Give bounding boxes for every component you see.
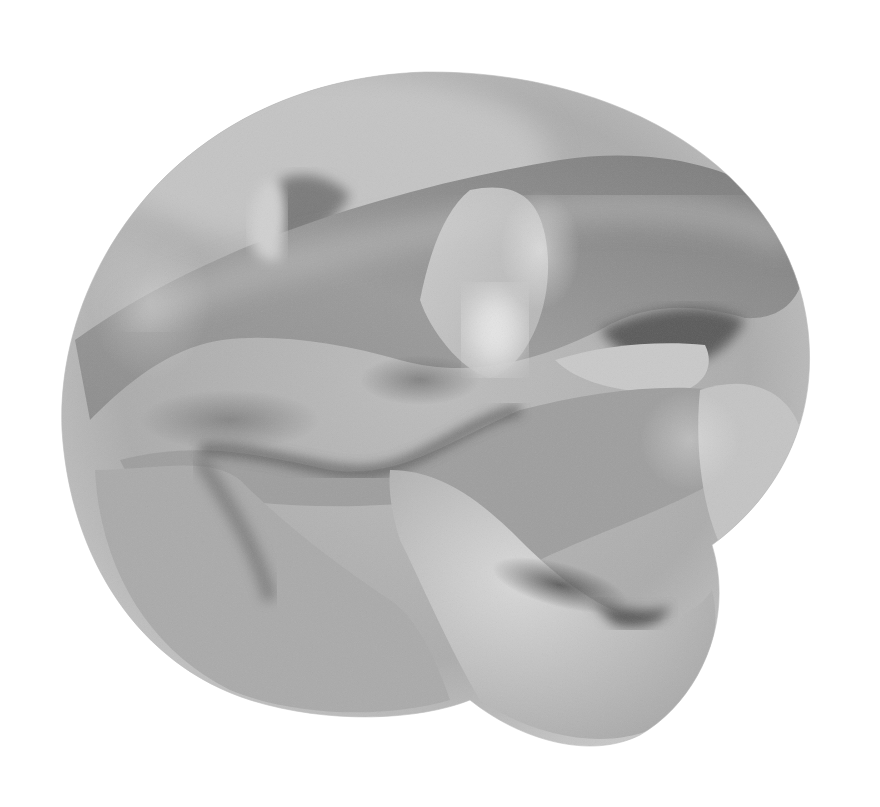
- surface-rendering: [0, 0, 880, 807]
- image-canvas: Grayscale rendering of an intertwined 3D…: [0, 0, 880, 807]
